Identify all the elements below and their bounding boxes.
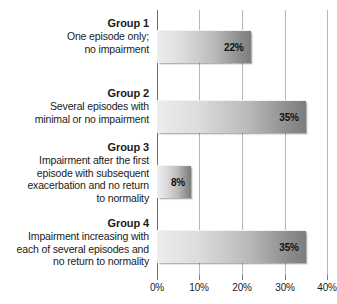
group-title: Group 1 bbox=[0, 16, 149, 30]
group-desc-line: to normality bbox=[0, 192, 149, 205]
x-tick-label: 10% bbox=[189, 282, 208, 293]
group-desc-line: Several episodes with bbox=[0, 100, 149, 113]
x-tick-mark bbox=[327, 275, 328, 280]
group-title: Group 3 bbox=[0, 140, 149, 154]
gridline-40 bbox=[327, 10, 328, 275]
group-desc-line: Impairment after the first bbox=[0, 154, 149, 167]
category-labels: Group 1 One episode only; no impairment … bbox=[0, 0, 153, 304]
group-title: Group 4 bbox=[0, 216, 149, 230]
bar-value-label: 35% bbox=[279, 112, 298, 123]
group-title: Group 2 bbox=[0, 86, 149, 100]
bar-value-label: 35% bbox=[279, 242, 298, 253]
category-label-group-2: Group 2 Several episodes with minimal or… bbox=[0, 86, 149, 125]
plot-area: 22% 35% 8% 35% bbox=[157, 10, 327, 275]
group-desc-line: One episode only; bbox=[0, 30, 149, 43]
bar-group-2: 35% bbox=[157, 100, 306, 133]
x-tick-label: 30% bbox=[275, 282, 294, 293]
bar-value-label: 22% bbox=[224, 42, 243, 53]
group-desc-line: minimal or no impairment bbox=[0, 113, 149, 126]
bar-group-1: 22% bbox=[157, 30, 251, 63]
category-label-group-4: Group 4 Impairment increasing with each … bbox=[0, 216, 149, 268]
category-label-group-3: Group 3 Impairment after the first episo… bbox=[0, 140, 149, 204]
bar-group-3: 8% bbox=[157, 165, 191, 198]
x-tick-label: 0% bbox=[150, 282, 164, 293]
x-tick-mark bbox=[157, 275, 158, 280]
group-desc-line: Impairment increasing with bbox=[0, 230, 149, 243]
bar-value-label: 8% bbox=[171, 177, 185, 188]
group-desc-line: no impairment bbox=[0, 43, 149, 56]
group-desc-line: episode with subsequent bbox=[0, 167, 149, 180]
group-desc-line: each of several episodes and bbox=[0, 243, 149, 256]
x-tick-label: 40% bbox=[317, 282, 336, 293]
group-desc-line: exacerbation and no return bbox=[0, 179, 149, 192]
x-tick-label: 20% bbox=[232, 282, 251, 293]
group-desc-line: no return to normality bbox=[0, 255, 149, 268]
horizontal-bar-chart: 22% 35% 8% 35% Group 1 One episode only;… bbox=[0, 0, 337, 304]
x-axis: 0% 10% 20% 30% 40% bbox=[157, 275, 327, 300]
x-tick-mark bbox=[242, 275, 243, 280]
bar-group-4: 35% bbox=[157, 230, 306, 263]
category-label-group-1: Group 1 One episode only; no impairment bbox=[0, 16, 149, 55]
x-tick-mark bbox=[199, 275, 200, 280]
x-tick-mark bbox=[285, 275, 286, 280]
